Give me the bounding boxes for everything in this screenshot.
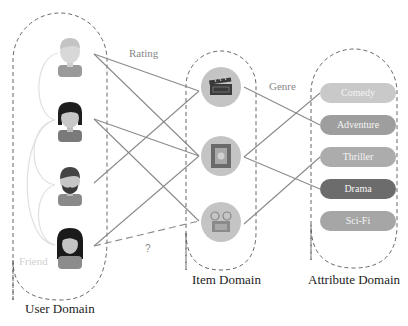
rating-label: Rating xyxy=(129,47,158,59)
item-3-projector xyxy=(201,202,241,242)
attribute-comedy: Comedy xyxy=(320,83,396,103)
attribute-adventure: Adventure xyxy=(320,115,396,135)
user-4 xyxy=(57,228,83,269)
user-domain-label: User Domain xyxy=(25,301,95,317)
attribute-sci-fi: Sci-Fi xyxy=(320,211,396,231)
user-2 xyxy=(58,102,82,142)
item-1-clapperboard xyxy=(201,67,241,107)
item-domain-label: Item Domain xyxy=(192,272,261,288)
user-1 xyxy=(58,38,82,77)
item-2-film-strip xyxy=(201,136,241,176)
rating-edges xyxy=(94,54,199,246)
friend-label: Friend xyxy=(19,255,48,267)
attribute-drama: Drama xyxy=(320,179,396,199)
unknown-rating-label: ? xyxy=(145,243,151,254)
attribute-thriller: Thriller xyxy=(320,147,396,167)
genre-edges xyxy=(244,87,320,224)
user-3 xyxy=(58,167,82,206)
friend-edges xyxy=(27,53,58,245)
genre-label: Genre xyxy=(269,80,296,92)
attribute-domain-label: Attribute Domain xyxy=(308,272,400,288)
